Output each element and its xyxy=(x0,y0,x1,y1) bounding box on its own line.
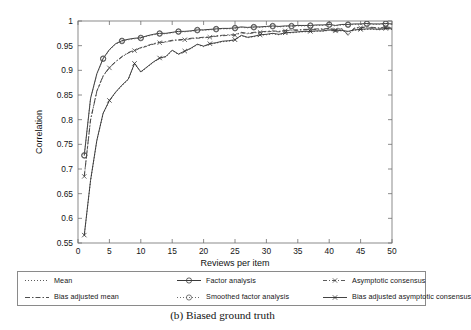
series-asymptotic-consensus xyxy=(82,25,392,178)
series-line xyxy=(84,27,392,176)
legend-grid: MeanFactor analysisAsymptotic consensusB… xyxy=(18,272,425,305)
legend-line-sample xyxy=(24,276,50,285)
series-line xyxy=(84,28,392,235)
y-axis-label: Correlation xyxy=(34,110,44,154)
legend-entry[interactable]: Factor analysis xyxy=(170,276,316,285)
legend-line-sample xyxy=(24,293,50,302)
legend-label: Mean xyxy=(54,277,72,284)
x-tick-label: 5 xyxy=(107,246,112,256)
legend-entry[interactable]: Smoothed factor analysis xyxy=(170,293,316,302)
series-bias-adjusted-asymptotic-consensus xyxy=(82,26,392,237)
x-tick-label: 50 xyxy=(387,246,397,256)
x-tick-label: 45 xyxy=(356,246,366,256)
series-mean xyxy=(84,29,392,236)
series-line xyxy=(84,27,392,176)
data-marker-x xyxy=(132,61,136,65)
y-tick-label: 0.95 xyxy=(57,41,74,51)
data-marker-x xyxy=(107,98,111,102)
y-tick-label: 0.85 xyxy=(57,90,74,100)
y-tick-label: 0.7 xyxy=(61,164,73,174)
x-tick-label: 10 xyxy=(136,246,146,256)
series-line xyxy=(84,23,392,155)
y-tick-label: 0.75 xyxy=(57,139,74,149)
legend-label: Bias adjusted asymptotic consensus xyxy=(352,293,471,300)
x-tick-label: 15 xyxy=(168,246,178,256)
y-tick-label: 1 xyxy=(68,16,73,26)
x-tick-label: 35 xyxy=(293,246,303,256)
data-marker-x xyxy=(183,49,187,53)
data-marker-x xyxy=(132,48,136,52)
x-tick-label: 25 xyxy=(230,246,240,256)
y-tick-label: 0.9 xyxy=(61,65,73,75)
x-tick-label: 30 xyxy=(262,246,272,256)
legend-label: Smoothed factor analysis xyxy=(206,293,289,300)
y-tick-label: 0.8 xyxy=(61,115,73,125)
x-tick-label: 20 xyxy=(199,246,209,256)
x-axis-label: Reviews per item xyxy=(200,258,269,268)
legend-entry[interactable]: Mean xyxy=(18,276,170,285)
chart-legend: MeanFactor analysisAsymptotic consensusB… xyxy=(17,271,426,306)
legend-entry[interactable]: Bias adjusted asymptotic consensus xyxy=(316,293,471,302)
y-tick-label: 0.6 xyxy=(61,213,73,223)
x-tick-label: 40 xyxy=(325,246,335,256)
legend-line-sample xyxy=(322,276,348,285)
legend-entry[interactable]: Asymptotic consensus xyxy=(316,276,471,285)
series-bias-adjusted-mean xyxy=(84,27,392,176)
legend-line-sample xyxy=(176,293,202,302)
data-marker-x xyxy=(107,66,111,70)
legend-label: Bias adjusted mean xyxy=(54,293,119,300)
chart-plot-area: 051015202530354045500.550.60.650.70.750.… xyxy=(0,0,445,268)
legend-label: Factor analysis xyxy=(206,277,256,284)
figure-caption: (b) Biased ground truth xyxy=(0,309,445,321)
series-line xyxy=(84,24,392,156)
y-tick-label: 0.55 xyxy=(57,238,74,248)
legend-line-sample xyxy=(322,293,348,302)
legend-label: Asymptotic consensus xyxy=(352,277,426,284)
series-line xyxy=(84,29,392,236)
legend-line-sample xyxy=(176,276,202,285)
x-tick-label: 0 xyxy=(76,246,81,256)
y-tick-label: 0.65 xyxy=(57,189,74,199)
chart-svg: 051015202530354045500.550.60.650.70.750.… xyxy=(0,0,445,268)
legend-entry[interactable]: Bias adjusted mean xyxy=(18,293,170,302)
